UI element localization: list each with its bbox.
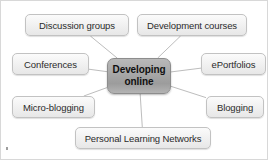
node-micro-blogging[interactable]: Micro-blogging bbox=[12, 96, 95, 118]
node-discussion-groups[interactable]: Discussion groups bbox=[25, 14, 129, 36]
node-label: Personal Learning Networks bbox=[85, 133, 202, 144]
connector-line bbox=[158, 36, 181, 58]
hub-label-line1: Developing bbox=[113, 64, 166, 75]
node-label: Development courses bbox=[147, 20, 237, 31]
connector-line bbox=[84, 88, 107, 96]
connector-line bbox=[171, 86, 206, 97]
node-label: ePortfolios bbox=[212, 59, 256, 70]
hub-node-developing-online[interactable]: Developing online bbox=[107, 58, 171, 94]
node-eportfolios[interactable]: ePortfolios bbox=[201, 53, 266, 75]
hub-label-line2: online bbox=[125, 76, 154, 87]
connector-line bbox=[140, 94, 142, 127]
connector-line bbox=[90, 36, 117, 58]
node-label: Conferences bbox=[24, 59, 77, 70]
node-personal-learning-networks[interactable]: Personal Learning Networks bbox=[75, 127, 211, 149]
connector-line bbox=[89, 69, 107, 71]
node-label: Micro-blogging bbox=[23, 102, 84, 113]
image-artifact-speck bbox=[6, 147, 8, 150]
node-label: Discussion groups bbox=[39, 20, 115, 31]
diagram-canvas: Developing online Discussion groups Deve… bbox=[0, 0, 268, 160]
node-blogging[interactable]: Blogging bbox=[206, 96, 264, 118]
node-conferences[interactable]: Conferences bbox=[12, 53, 89, 75]
node-label: Blogging bbox=[217, 102, 253, 113]
connector-line bbox=[171, 68, 201, 72]
node-development-courses[interactable]: Development courses bbox=[137, 14, 247, 36]
